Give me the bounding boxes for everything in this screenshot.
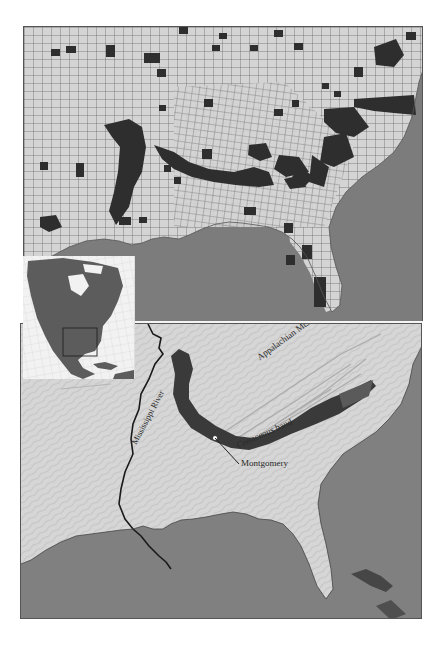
inset-svg xyxy=(23,256,134,379)
label-montgomery: Montgomery xyxy=(241,458,288,468)
map-figure: Appalachian Mts. Cretaceous band Mississ… xyxy=(0,0,444,649)
north-america-inset-map xyxy=(23,256,135,379)
